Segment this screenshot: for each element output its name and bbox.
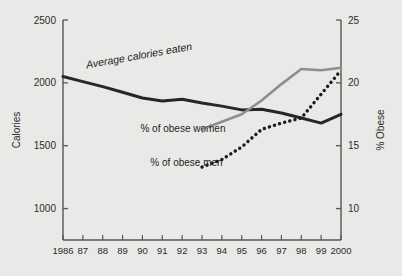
x-axis-ticks: 1986878889909192939495969798992000	[52, 235, 351, 256]
series-annotation-label: % of obese men	[150, 157, 222, 168]
right-tick-label: 20	[348, 77, 360, 88]
x-tick-label: 97	[276, 245, 287, 256]
right-tick-label: 10	[348, 203, 360, 214]
x-tick-label: 92	[177, 245, 188, 256]
x-tick-label: 94	[217, 245, 228, 256]
x-tick-label: 99	[316, 245, 327, 256]
series-annotation-label: % of obese women	[140, 123, 225, 134]
series-line	[63, 77, 341, 124]
right-tick-label: 15	[348, 140, 360, 151]
x-tick-label: 95	[236, 245, 247, 256]
left-tick-label: 1000	[34, 203, 57, 214]
series-line	[202, 68, 341, 130]
y2-axis-title: % Obese	[375, 109, 386, 151]
x-tick-label: 91	[157, 245, 168, 256]
chart-container: 2500200015001000 25201510 19868788899091…	[0, 0, 402, 276]
y-axis-title: Calories	[11, 112, 22, 149]
data-series-layer	[63, 68, 341, 167]
series-line	[202, 70, 341, 167]
left-tick-label: 1500	[34, 140, 57, 151]
left-tick-label: 2500	[34, 15, 57, 26]
left-tick-label: 2000	[34, 77, 57, 88]
series-annotation-label: Average calories eaten	[84, 40, 193, 71]
right-tick-label: 25	[348, 15, 360, 26]
x-tick-label: 93	[197, 245, 208, 256]
line-chart: 2500200015001000 25201510 19868788899091…	[0, 0, 402, 276]
x-tick-label: 87	[78, 245, 89, 256]
x-tick-label: 1986	[52, 245, 73, 256]
x-tick-label: 96	[256, 245, 267, 256]
x-tick-label: 89	[117, 245, 128, 256]
x-tick-label: 98	[296, 245, 307, 256]
x-tick-label: 90	[137, 245, 148, 256]
x-tick-label: 2000	[330, 245, 351, 256]
x-tick-label: 88	[97, 245, 108, 256]
